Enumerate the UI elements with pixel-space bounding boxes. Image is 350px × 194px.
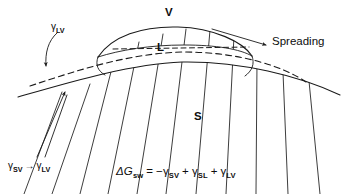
liquid-vapor-interface-curve	[98, 27, 252, 57]
solid-phase-label: S	[194, 111, 202, 123]
gamma-transition-label: γSV→γLV	[8, 161, 50, 173]
equation-term2-subscript: SL	[198, 171, 208, 180]
equation-term2-sign: +	[179, 165, 192, 177]
liquid-phase-label: L	[157, 42, 164, 54]
gamma-sv-subscript: SV	[13, 165, 23, 174]
gamma-lv-callout-arrow	[46, 33, 57, 66]
gamma-lv-subscript: LV	[56, 26, 65, 35]
transition-arrow-glyph: →	[23, 160, 37, 171]
spreading-label: Spreading	[272, 36, 324, 48]
equation-equals: =	[143, 165, 156, 177]
equation-term1-sign: −	[156, 165, 163, 177]
diagram-canvas: V L S γLV γSV→γLV Spreading ΔGsw=−γSV+γS…	[0, 0, 350, 194]
gamma-sv-callout-line	[45, 95, 67, 157]
equation-delta: Δ	[116, 165, 124, 177]
equation-term3-sign: +	[208, 165, 221, 177]
vapor-phase-label: V	[165, 7, 173, 19]
equation-term1-subscript: SV	[169, 171, 179, 180]
equation-g-symbol: G	[124, 165, 133, 177]
gamma-lv-label: γLV	[51, 22, 65, 34]
equation-term3-subscript: LV	[226, 171, 235, 180]
free-energy-equation: ΔGsw=−γSV+γSL+γLV	[116, 166, 236, 180]
gamma-lv-subscript-2: LV	[42, 165, 51, 174]
solid-surface-curve	[18, 62, 340, 97]
equation-g-subscript: sw	[133, 171, 143, 180]
liquid-lens-left-foot	[97, 57, 105, 75]
gamma-sv-callout-arrow	[37, 92, 65, 157]
dashed-spread-film-curve	[30, 52, 306, 86]
spreading-direction-arrow	[212, 29, 266, 45]
